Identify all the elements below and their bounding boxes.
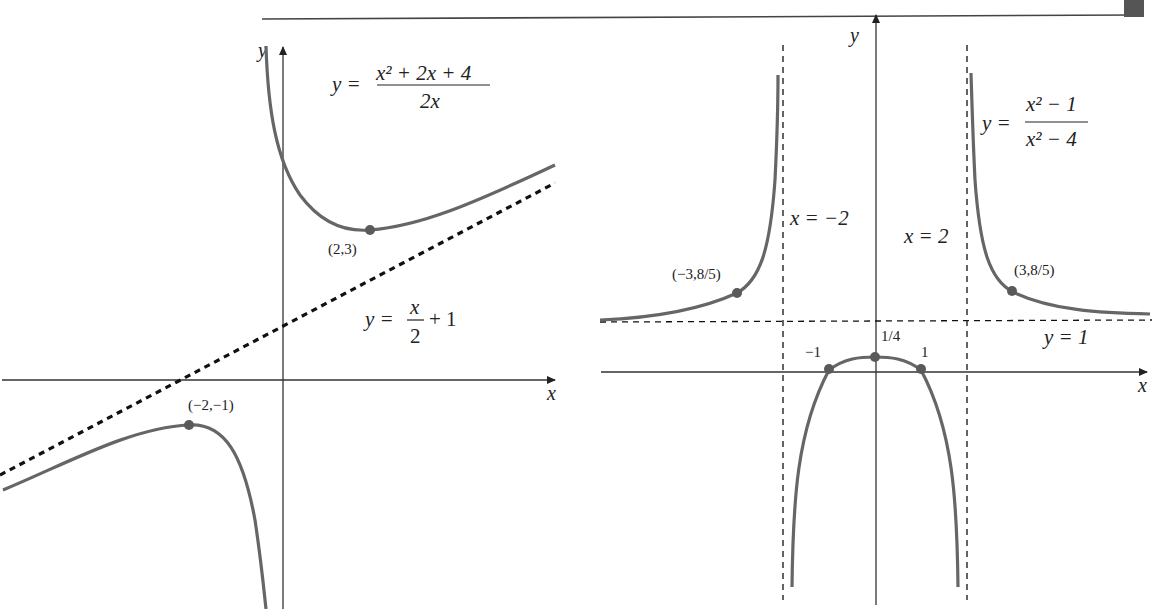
equation-label-right: y = x² − 1 x² − 4 <box>980 92 1088 151</box>
y-intercept-label: 1/4 <box>881 328 901 344</box>
point-root-neg1 <box>824 364 834 374</box>
curve-left-branch <box>600 75 778 320</box>
header-rule <box>262 15 1137 19</box>
point-min <box>365 225 375 235</box>
x-axis-label: x <box>546 382 556 404</box>
svg-text:2x: 2x <box>420 89 441 113</box>
point-max-label: (−2,−1) <box>188 397 234 414</box>
svg-text:x² − 4: x² − 4 <box>1025 127 1077 151</box>
figure: y x (2,3) (−2,−1) y = x² + 2x + 4 2x y =… <box>0 0 1159 609</box>
point-y-intercept <box>870 352 880 362</box>
asymptote-y-1-label: y = 1 <box>1042 325 1089 349</box>
svg-text:y =: y = <box>330 72 361 96</box>
asymptote-label-left: y = x 2 + 1 <box>363 295 457 348</box>
chart-right: y x (−3,8/5) (3,8/5) 1/4 −1 1 x = −2 x =… <box>600 15 1152 605</box>
asymptote-x-2-label: x = 2 <box>903 224 949 248</box>
svg-text:y =: y = <box>980 111 1011 135</box>
svg-text:x² − 1: x² − 1 <box>1025 92 1077 116</box>
root-neg1-label: −1 <box>805 344 821 360</box>
asymptote-x-neg2-label: x = −2 <box>789 206 849 230</box>
svg-text:2: 2 <box>410 324 421 348</box>
y-axis-label: y <box>848 24 859 47</box>
point-neg3 <box>732 288 742 298</box>
point-max <box>184 420 194 430</box>
oblique-asymptote <box>0 183 555 475</box>
point-root-1 <box>916 364 926 374</box>
svg-text:x: x <box>409 295 420 319</box>
point-min-label: (2,3) <box>328 241 357 258</box>
point-3 <box>1007 286 1017 296</box>
svg-text:x² + 2x + 4: x² + 2x + 4 <box>375 61 472 85</box>
root-1-label: 1 <box>921 344 929 360</box>
svg-text:y =: y = <box>363 307 394 331</box>
equation-label-left: y = x² + 2x + 4 2x <box>330 61 490 113</box>
svg-text:+ 1: + 1 <box>429 307 457 331</box>
point-3-label: (3,8/5) <box>1014 262 1054 279</box>
curve-middle-branch <box>792 357 958 587</box>
chart-left: y x (2,3) (−2,−1) y = x² + 2x + 4 2x y =… <box>0 39 556 609</box>
x-axis-label: x <box>1137 374 1147 396</box>
corner-tab <box>1124 0 1144 17</box>
point-neg3-label: (−3,8/5) <box>672 266 721 283</box>
